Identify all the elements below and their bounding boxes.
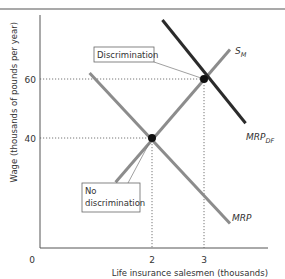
- y-tick-label: 40: [25, 134, 37, 144]
- discrimination-label-text: Discrimination: [97, 50, 158, 60]
- label-s-m: SM: [235, 46, 247, 59]
- no-discrimination-label-text: No: [85, 186, 97, 196]
- x-tick-label: 2: [149, 255, 155, 265]
- x-axis-label: Life insurance salesmen (thousands): [112, 268, 268, 278]
- x-tick-labels: 23: [149, 255, 207, 265]
- equilibrium-point-discrimination: [200, 75, 208, 83]
- no-discrimination-label-text: discrimination: [85, 198, 145, 208]
- origin-label: 0: [29, 255, 35, 265]
- label-mrp-df: MRPDF: [246, 132, 274, 145]
- y-tick-label: 60: [25, 75, 37, 85]
- x-tick-label: 3: [201, 255, 207, 265]
- label-mrp: MRP: [232, 213, 252, 223]
- discrimination-label: Discrimination: [94, 47, 158, 62]
- curve-labels: SMMRPDFMRP: [232, 46, 274, 223]
- guide-lines: [40, 79, 204, 248]
- annotations: DiscriminationNodiscrimination: [82, 47, 158, 212]
- y-tick-labels: 4060: [25, 75, 37, 144]
- no-discrimination-label-leader: [128, 138, 152, 183]
- y-axis-label: Wage (thousands of pounds per year): [9, 22, 19, 182]
- curve-mrp-df: [162, 20, 245, 123]
- no-discrimination-label: Nodiscrimination: [82, 183, 145, 212]
- labour-market-discrimination-chart: 0 23 4060 Life insurance salesmen (thous…: [0, 0, 285, 279]
- equilibrium-point-no-discrimination: [148, 134, 156, 142]
